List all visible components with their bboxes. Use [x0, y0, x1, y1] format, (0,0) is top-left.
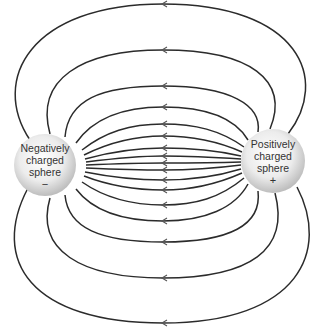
negative-label-line2: charged	[10, 154, 80, 166]
field-line	[47, 50, 275, 134]
field-line	[14, 187, 309, 323]
minus-sign: −	[10, 178, 80, 190]
negative-label-line3: sphere	[10, 166, 80, 178]
negative-label-line1: Negatively	[10, 142, 80, 154]
plus-sign: +	[238, 174, 308, 186]
positive-sphere-label: Positively charged sphere +	[238, 138, 308, 186]
positive-label-line3: sphere	[238, 162, 308, 174]
positive-label-line2: charged	[238, 150, 308, 162]
field-line	[15, 4, 305, 140]
positive-label-line1: Positively	[238, 138, 308, 150]
negative-sphere-label: Negatively charged sphere −	[10, 142, 80, 190]
field-line	[65, 86, 258, 137]
field-line	[65, 191, 258, 242]
